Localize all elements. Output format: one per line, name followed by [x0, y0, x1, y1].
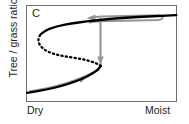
figure-panel-c: C Tree / grass ratio Dry Moist: [0, 0, 189, 124]
x-axis-label-moist: Moist: [145, 104, 170, 116]
y-axis-label: Tree / grass ratio: [7, 0, 19, 84]
panel-label: C: [32, 7, 40, 19]
x-axis-label-dry: Dry: [27, 104, 43, 116]
